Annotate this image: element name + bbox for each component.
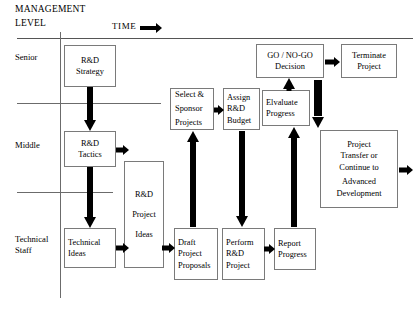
lane-axis-vertical [60, 32, 61, 298]
node-perform-rd-project[interactable]: Perform R&D Project [222, 228, 265, 280]
node-rd-tactics-line1: R&D [81, 138, 99, 150]
node-technical-ideas[interactable]: Technical Ideas [64, 228, 116, 268]
node-perform-rd-project-line2: R&D [226, 248, 244, 260]
node-rd-strategy-line1: R&D [81, 55, 99, 67]
lane-divider-middle-technical [17, 192, 113, 193]
node-draft-project-proposals-line2: Project [178, 248, 202, 260]
node-terminate-project-line1: Terminate [352, 50, 386, 62]
arrow-right-icon-ideas-to-draft [162, 242, 175, 253]
level-label: LEVEL [15, 19, 46, 29]
lane-label-technical: Technical Staff [15, 234, 48, 256]
node-project-transfer-line2: Transfer or [340, 150, 377, 162]
lane-label-middle: Middle [15, 140, 40, 151]
arrow-up-icon-report-to-evaluate [287, 127, 301, 227]
node-evaluate-progress-line1: Elvaluate [266, 97, 298, 109]
arrow-down-icon-tactics-to-technical-ideas [82, 167, 98, 228]
arrow-up-icon-draft-to-select [186, 131, 200, 227]
node-project-transfer-line4: Advanced [342, 176, 376, 188]
arrow-right-icon-decision-to-terminate [325, 56, 340, 67]
node-assign-rd-budget-line2: R&D [227, 103, 245, 115]
node-project-transfer-line3: Continue to [339, 162, 378, 174]
node-go-no-go-decision[interactable]: GO / NO-GO Decision [256, 44, 324, 78]
node-select-sponsor-projects-line3: Projects [175, 116, 202, 130]
node-rd-tactics-line2: Tactics [78, 149, 102, 161]
node-select-sponsor-projects-line2: Sponsor [175, 102, 202, 116]
arrow-right-icon-select-to-assign [214, 104, 224, 115]
node-project-transfer-line5: Development [336, 188, 381, 200]
node-project-transfer-line1: Project [347, 139, 371, 151]
node-report-progress-line1: Report [278, 238, 301, 250]
node-perform-rd-project-line1: Perform [226, 237, 253, 249]
arrow-right-icon-technical-ideas-to-ideas [116, 242, 129, 253]
arrow-right-icon-tactics-to-ideas [116, 144, 129, 155]
arrow-right-icon-perform-to-report [264, 243, 275, 254]
node-rd-strategy-line2: Strategy [76, 66, 104, 78]
arrow-down-icon-assign-to-perform [235, 131, 249, 227]
arrow-up-icon-evaluate-to-decision [282, 78, 295, 91]
node-evaluate-progress-line2: Progress [266, 108, 295, 120]
node-terminate-project[interactable]: Terminate Project [341, 44, 397, 78]
node-rd-strategy[interactable]: R&D Strategy [64, 45, 116, 87]
node-assign-rd-budget-line1: Assign [227, 92, 250, 104]
diagram-canvas: MANAGEMENT LEVEL TIME Senior Middle Tech… [0, 0, 414, 311]
lane-label-senior: Senior [15, 52, 37, 63]
arrow-right-icon-transfer-out [399, 164, 413, 175]
node-go-no-go-decision-line1: GO / NO-GO [267, 50, 313, 62]
node-draft-project-proposals[interactable]: Draft Project Proposals [174, 228, 218, 280]
node-select-sponsor-projects-line1: Select & [175, 88, 204, 102]
node-rd-project-ideas-line1: R&D [135, 188, 153, 202]
node-project-transfer[interactable]: Project Transfer or Continue to Advanced… [320, 130, 398, 208]
node-go-no-go-decision-line2: Decision [275, 61, 305, 73]
node-select-sponsor-projects[interactable]: Select & Sponsor Projects [170, 88, 214, 130]
node-terminate-project-line2: Project [357, 61, 381, 73]
time-label: TIME [112, 22, 136, 31]
management-label: MANAGEMENT [15, 5, 86, 15]
node-report-progress[interactable]: Report Progress [274, 228, 316, 270]
lane-label-technical-line2: Staff [15, 245, 48, 256]
node-rd-project-ideas-line3: Ideas [135, 228, 153, 242]
arrow-right-icon [140, 23, 162, 33]
lane-label-technical-line1: Technical [15, 234, 48, 245]
arrow-down-icon-decision-to-transfer [310, 80, 326, 128]
node-draft-project-proposals-line3: Proposals [178, 260, 211, 272]
node-evaluate-progress[interactable]: Elvaluate Progress [262, 90, 310, 126]
arrow-down-icon-strategy-to-tactics [82, 87, 98, 131]
node-technical-ideas-line2: Ideas [68, 248, 86, 260]
node-report-progress-line2: Progress [278, 249, 307, 261]
node-assign-rd-budget[interactable]: Assign R&D Budget [223, 88, 260, 130]
node-rd-tactics[interactable]: R&D Tactics [64, 131, 116, 167]
node-technical-ideas-line1: Technical [68, 237, 100, 249]
node-rd-project-ideas-line2: Project [132, 208, 156, 222]
lane-divider-top [17, 38, 413, 39]
node-rd-project-ideas[interactable]: R&D Project Ideas [124, 161, 164, 268]
node-assign-rd-budget-line3: Budget [227, 115, 251, 127]
node-draft-project-proposals-line1: Draft [178, 237, 196, 249]
node-perform-rd-project-line3: Project [226, 260, 250, 272]
